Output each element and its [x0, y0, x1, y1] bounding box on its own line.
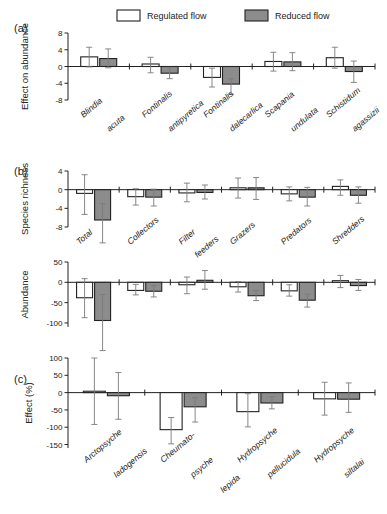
panel-b-richness-category-label-0: Total — [74, 227, 95, 247]
panel-c-y-tick-label: -100 — [46, 423, 63, 432]
panel-c-category-label-0: Arctopsyche — [81, 427, 124, 466]
panel-c-y-tick-label: 0 — [58, 389, 63, 398]
legend-swatch-reduced — [245, 10, 268, 21]
panel-b-richness-y-tick-label: -8 — [55, 223, 63, 232]
panel-a-category-label-3: undulata — [288, 105, 320, 134]
panel-a-category-label-4: Schistidum — [324, 85, 362, 119]
panel-c-category-label-0: ladogensis — [111, 445, 149, 479]
panel-b-richness-y-tick-label: -4 — [55, 204, 63, 213]
panel-a-y-tick-label: 4 — [58, 46, 63, 55]
panel-c-y-tick-label: -150 — [46, 441, 63, 450]
panel-a-category-label-4: agassizii — [350, 104, 382, 133]
panel-c-y-axis-title: Effect (%) — [23, 382, 34, 424]
panel-a-category-label-0: Blindia — [78, 95, 104, 119]
legend-swatch-regulated — [117, 10, 140, 21]
panel-c-category-label-3: siltalai — [342, 456, 367, 480]
panel-b-richness-y-tick-label: 4 — [58, 167, 63, 176]
panel-c-category-label-1: lepida — [218, 472, 242, 494]
panel-b-richness-y-axis-title: Species richness — [19, 163, 30, 235]
panel-c-y-tick-label: 50 — [54, 371, 63, 380]
figure-root: Regulated flowReduced flow(a)(b)(c)-8-40… — [0, 0, 387, 514]
legend-label-regulated: Regulated flow — [147, 11, 207, 21]
panel-b-richness-category-label-1: Collectors — [125, 214, 161, 246]
panel-a-y-axis-title: Effect on abundance — [19, 23, 30, 110]
panel-a-category-label-3: Scapania — [262, 89, 296, 120]
panel-a-category-label-1: Fontinalis — [140, 88, 175, 120]
panel-a-category-label-1: antipyretica — [166, 98, 206, 134]
panel-b-richness-category-label-5: Shredders — [330, 213, 367, 246]
panel-b-abundance-y-tick-label: 0 — [58, 278, 63, 287]
panel-b-richness-category-label-3: Grazers — [228, 219, 258, 247]
panel-c-category-label-3: Hydropsyche — [312, 425, 357, 465]
panel-a-y-tick-label: -8 — [55, 96, 63, 105]
panel-b-abundance-y-tick-label: -50 — [51, 299, 63, 308]
panel-c-y-tick-label: 100 — [49, 354, 63, 363]
panel-c-category-label-2: Hydropsyche — [235, 425, 280, 465]
panel-a-category-label-2: Fontinalis — [201, 88, 236, 120]
panel-b-abundance-y-tick-label: -100 — [46, 319, 63, 328]
legend-label-reduced: Reduced flow — [275, 11, 330, 21]
panel-a-y-tick-label: -4 — [55, 79, 63, 88]
panel-a-category-label-0: acuta — [104, 112, 127, 133]
panel-b-richness-y-tick-label: 0 — [58, 186, 63, 195]
panel-b-richness-category-label-4: Predators — [279, 215, 314, 247]
panel-a-y-tick-label: 8 — [58, 29, 63, 38]
multi-panel-bar-chart: Regulated flowReduced flow(a)(b)(c)-8-40… — [0, 0, 387, 514]
panel-b-richness-category-label-2: feeders — [192, 233, 221, 259]
panel-b-abundance-y-tick-label: 50 — [54, 258, 63, 267]
panel-b-abundance-y-axis-title: Abundance — [19, 270, 30, 318]
panel-c-category-label-1: Cheumato- — [158, 430, 197, 465]
panel-a-y-tick-label: 0 — [58, 63, 63, 72]
panel-c-y-tick-label: -50 — [51, 406, 63, 415]
panel-c-category-label-1: psyche — [187, 454, 215, 480]
panel-c-category-label-2: pellucidula — [264, 446, 302, 480]
panel-b-richness-category-label-2: Filter — [176, 226, 198, 247]
panel-a-category-label-2: dalecarlica — [227, 100, 265, 134]
